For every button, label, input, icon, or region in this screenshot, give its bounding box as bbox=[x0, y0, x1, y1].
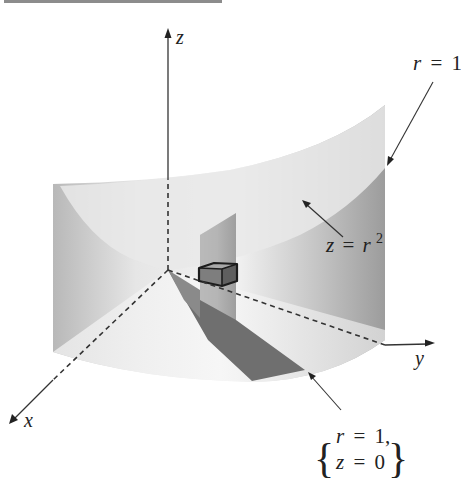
paraboloid-label: z = r 2 bbox=[325, 231, 383, 257]
x-axis bbox=[14, 380, 53, 419]
svg-text:z = 0: z = 0 bbox=[335, 450, 385, 474]
svg-text:r = 1,: r = 1, bbox=[336, 424, 390, 448]
y-axis-arrowhead bbox=[425, 340, 435, 347]
right-brace: } bbox=[388, 435, 408, 479]
cylinder-label: r = 1 bbox=[413, 51, 461, 75]
y-axis-label: y bbox=[413, 347, 424, 370]
svg-text:z = r 2: z = r 2 bbox=[325, 231, 383, 257]
svg-text:r = 1: r = 1 bbox=[413, 51, 461, 75]
left-brace: { bbox=[314, 435, 334, 479]
x-axis-label: x bbox=[23, 409, 33, 431]
y-axis bbox=[385, 344, 428, 345]
z-axis-arrowhead bbox=[165, 28, 172, 38]
base-curve-leader bbox=[311, 376, 341, 410]
cylinder-leader bbox=[390, 82, 433, 160]
cylindrical-coordinates-figure: z x y r = 1 z = r 2 { r = 1, z = 0 bbox=[0, 0, 461, 479]
cylinder-leader-arrowhead bbox=[387, 156, 394, 166]
z-axis-label: z bbox=[175, 26, 184, 48]
base-curve-label: { r = 1, z = 0 } bbox=[314, 424, 408, 479]
